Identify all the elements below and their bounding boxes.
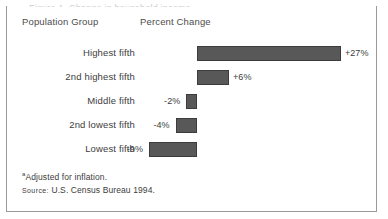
- chart-row: 2nd highest fifth+6%: [7, 66, 376, 90]
- row-plot-area: -2%: [7, 90, 376, 114]
- footnote-adjusted: aAdjusted for inflation.: [22, 168, 352, 184]
- bar-value-label: -9%: [127, 144, 143, 154]
- bar: [149, 142, 197, 157]
- bar-value-label: +6%: [233, 72, 252, 82]
- footnotes: aAdjusted for inflation. Source: U.S. Ce…: [22, 168, 352, 197]
- chart-row: 2nd lowest fifth-4%: [7, 114, 376, 138]
- header-population-group: Population Group: [22, 16, 98, 27]
- bar-value-label: -2%: [164, 96, 180, 106]
- chart-rows: Highest fifth+27%2nd highest fifth+6%Mid…: [7, 42, 376, 162]
- bar: [176, 118, 197, 133]
- chart-row: Highest fifth+27%: [7, 42, 376, 66]
- bar-value-label: -4%: [153, 120, 169, 130]
- row-plot-area: +6%: [7, 66, 376, 90]
- row-plot-area: -9%: [7, 138, 376, 162]
- bar-value-label: +27%: [345, 48, 369, 58]
- source-label: Source:: [22, 187, 49, 194]
- figure-frame: Figure 1. Change in household income Pop…: [6, 6, 377, 212]
- row-plot-area: -4%: [7, 114, 376, 138]
- footnote-source: Source: U.S. Census Bureau 1994.: [22, 184, 352, 197]
- bar: [186, 94, 197, 109]
- bar: [197, 70, 229, 85]
- chart-row: Middle fifth-2%: [7, 90, 376, 114]
- clipped-figure-title: Figure 1. Change in household income: [29, 3, 191, 7]
- row-plot-area: +27%: [7, 42, 376, 66]
- chart-row: Lowest fifth-9%: [7, 138, 376, 162]
- header-percent-change: Percent Change: [140, 16, 211, 27]
- source-text: U.S. Census Bureau 1994.: [51, 185, 155, 195]
- footnote-text: Adjusted for inflation.: [25, 172, 107, 182]
- bar: [197, 46, 341, 61]
- column-headers: Population Group Percent Change: [7, 16, 376, 30]
